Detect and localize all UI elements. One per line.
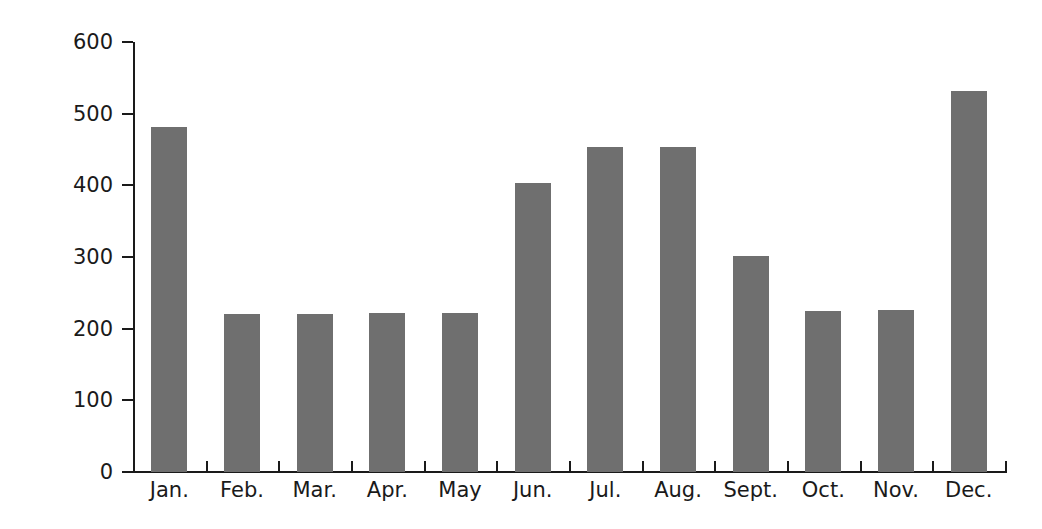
x-axis-end-tick xyxy=(1005,461,1007,473)
plot-area: 0100200300400500600 xyxy=(133,42,1005,472)
x-axis-tick xyxy=(424,461,426,472)
y-axis-tick-label: 400 xyxy=(73,173,113,197)
y-axis-tick-label: 300 xyxy=(73,245,113,269)
y-axis-tick: 100 xyxy=(122,399,133,401)
x-axis-tick-label: Nov. xyxy=(873,478,919,502)
x-axis-tick-label: May xyxy=(438,478,481,502)
x-axis-tick-label: Aug. xyxy=(654,478,702,502)
y-axis-tick: 200 xyxy=(122,328,133,330)
x-axis-tick-label: Apr. xyxy=(367,478,408,502)
bar xyxy=(369,313,405,472)
x-axis-tick xyxy=(714,461,716,472)
bar xyxy=(878,310,914,472)
x-axis-tick xyxy=(351,461,353,472)
bar xyxy=(442,313,478,472)
bar-chart: Euro 0100200300400500600 Jan.Feb.Mar.Apr… xyxy=(0,0,1042,529)
x-axis-tick-label: Oct. xyxy=(802,478,845,502)
bar xyxy=(224,314,260,472)
x-axis-tick xyxy=(206,461,208,472)
x-axis-tick xyxy=(932,461,934,472)
bar xyxy=(733,256,769,472)
x-axis-tick xyxy=(787,461,789,472)
y-axis-tick: 600 xyxy=(122,41,133,43)
x-axis-tick xyxy=(569,461,571,472)
x-axis-tick xyxy=(496,461,498,472)
y-axis-tick-label: 100 xyxy=(73,388,113,412)
x-axis-tick-label: Jun. xyxy=(513,478,553,502)
x-axis-tick-label: Feb. xyxy=(220,478,264,502)
y-axis-tick-label: 200 xyxy=(73,317,113,341)
bar xyxy=(660,147,696,472)
y-axis-tick: 0 xyxy=(122,471,133,473)
y-axis-tick-label: 0 xyxy=(100,460,113,484)
x-axis-tick-label: Jan. xyxy=(150,478,189,502)
x-axis-tick-label: Dec. xyxy=(945,478,992,502)
x-axis-tick-label: Jul. xyxy=(589,478,621,502)
bar xyxy=(587,147,623,472)
y-axis-tick-label: 600 xyxy=(73,30,113,54)
y-axis-tick-label: 500 xyxy=(73,102,113,126)
bar xyxy=(805,311,841,472)
x-axis-tick xyxy=(642,461,644,472)
y-axis-tick: 500 xyxy=(122,113,133,115)
bar xyxy=(297,314,333,472)
bar xyxy=(951,91,987,472)
bar xyxy=(151,127,187,472)
y-axis-tick: 300 xyxy=(122,256,133,258)
x-axis-tick xyxy=(278,461,280,472)
bar xyxy=(515,183,551,472)
y-axis-title: Euro xyxy=(0,0,32,529)
x-axis-tick xyxy=(860,461,862,472)
x-axis-tick-label: Sept. xyxy=(723,478,778,502)
x-axis-tick-label: Mar. xyxy=(292,478,336,502)
y-axis-tick: 400 xyxy=(122,184,133,186)
